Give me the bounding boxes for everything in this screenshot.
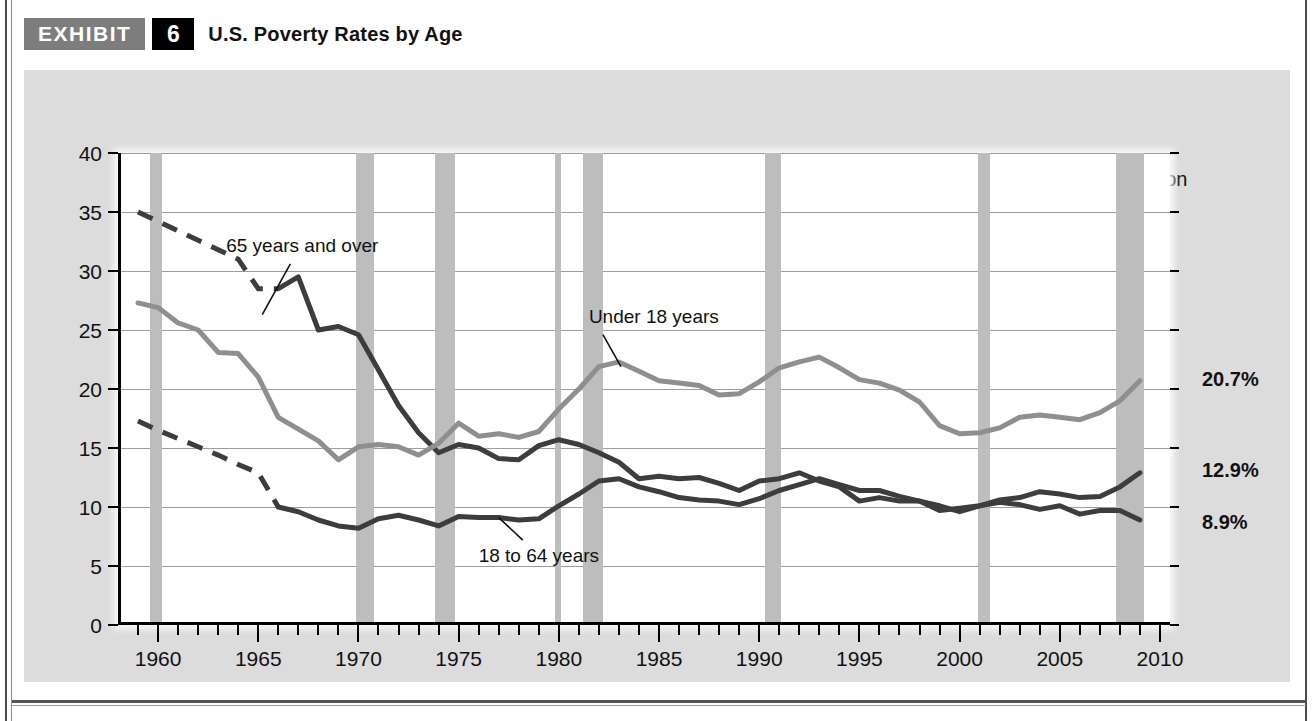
x-axis-label: 1960 (135, 647, 182, 671)
x-axis-tick-minor (1139, 625, 1141, 635)
y-axis-tick-right (1170, 388, 1179, 390)
x-axis-tick-minor (478, 625, 480, 635)
x-axis-label: 2010 (1137, 647, 1184, 671)
x-axis-tick-minor (217, 625, 219, 635)
chart-panel: Percent Recession 0510152025303540196019… (24, 70, 1290, 682)
x-axis-tick-minor (798, 625, 800, 635)
x-axis-label: 1995 (836, 647, 883, 671)
leader-18-to-64 (499, 518, 523, 540)
x-axis-tick-minor (878, 625, 880, 635)
x-axis-tick-major (1059, 625, 1061, 642)
x-axis-tick-minor (598, 625, 600, 635)
x-axis-tick-minor (317, 625, 319, 635)
x-axis-tick-minor (678, 625, 680, 635)
exhibit-page: EXHIBIT 6 U.S. Poverty Rates by Age Perc… (0, 0, 1312, 721)
x-axis-tick-minor (1119, 625, 1121, 635)
x-axis-tick-minor (618, 625, 620, 635)
x-axis-label: 1985 (636, 647, 683, 671)
y-axis-tick (108, 565, 118, 567)
footer-divider (12, 700, 1306, 703)
y-axis-label: 35 (56, 201, 102, 225)
x-axis-tick-minor (1019, 625, 1021, 635)
annotation-18-to-64: 18 to 64 years (479, 545, 599, 567)
x-axis-tick-minor (498, 625, 500, 635)
y-axis-label: 15 (56, 437, 102, 461)
x-axis-label: 1965 (235, 647, 282, 671)
x-axis-label: 1975 (435, 647, 482, 671)
annotation-under-18: Under 18 years (589, 306, 719, 328)
x-axis-tick-minor (337, 625, 339, 635)
x-axis-tick-minor (518, 625, 520, 635)
y-axis-label: 25 (56, 319, 102, 343)
y-axis-tick (108, 270, 118, 272)
x-axis-tick-minor (818, 625, 820, 635)
end-label-18-to-64: 12.9% (1202, 459, 1259, 482)
x-axis-tick-major (558, 625, 560, 642)
y-axis-tick (108, 329, 118, 331)
y-axis-tick (108, 152, 118, 154)
x-axis-tick-minor (578, 625, 580, 635)
y-axis-tick-right (1170, 329, 1179, 331)
y-axis-tick (108, 447, 118, 449)
x-axis-tick-major (959, 625, 961, 642)
y-axis-tick (108, 624, 118, 626)
x-axis-tick-minor (297, 625, 299, 635)
y-axis-tick-right (1170, 152, 1179, 154)
x-axis-label: 1970 (335, 647, 382, 671)
x-axis-label: 1990 (736, 647, 783, 671)
x-axis-tick-major (658, 625, 660, 642)
x-axis-tick-major (157, 625, 159, 642)
x-axis-tick-minor (939, 625, 941, 635)
x-axis-tick-minor (698, 625, 700, 635)
x-axis-tick-minor (277, 625, 279, 635)
x-axis-tick-minor (137, 625, 139, 635)
y-axis-tick-right (1170, 270, 1179, 272)
leader-under-18 (603, 335, 621, 367)
x-axis-tick-minor (438, 625, 440, 635)
y-axis-tick-right (1170, 506, 1179, 508)
x-axis-label: 1980 (535, 647, 582, 671)
end-label-65-over: 8.9% (1202, 511, 1248, 534)
y-axis-label: 0 (56, 614, 102, 638)
x-axis-tick-minor (838, 625, 840, 635)
y-axis-tick-right (1170, 447, 1179, 449)
x-axis-tick-major (758, 625, 760, 642)
y-axis-tick-right (1170, 211, 1179, 213)
x-axis-tick-major (357, 625, 359, 642)
page-right-rule (1305, 0, 1307, 721)
x-axis-tick-major (1159, 625, 1161, 642)
exhibit-label: EXHIBIT (24, 18, 145, 50)
annotation-leader-lines (118, 153, 1170, 625)
x-axis-label: 2005 (1036, 647, 1083, 671)
annotation-65-and-over: 65 years and over (226, 235, 378, 257)
y-axis-tick (108, 211, 118, 213)
end-label-under-18: 20.7% (1202, 368, 1259, 391)
page-title: U.S. Poverty Rates by Age (208, 23, 462, 46)
exhibit-header: EXHIBIT 6 U.S. Poverty Rates by Age (24, 14, 463, 54)
exhibit-number: 6 (152, 18, 194, 50)
y-axis-label: 40 (56, 142, 102, 166)
x-axis-tick-minor (778, 625, 780, 635)
x-axis-tick-minor (898, 625, 900, 635)
x-axis-tick-minor (197, 625, 199, 635)
y-axis-label: 10 (56, 496, 102, 520)
x-axis-tick-major (858, 625, 860, 642)
y-axis-tick (108, 506, 118, 508)
x-axis-tick-minor (979, 625, 981, 635)
y-axis-label: 30 (56, 260, 102, 284)
x-axis-tick-major (458, 625, 460, 642)
x-axis-tick-minor (738, 625, 740, 635)
x-axis-tick-minor (919, 625, 921, 635)
y-axis-label: 20 (56, 378, 102, 402)
footer-divider-thin (12, 705, 1306, 706)
x-axis-tick-minor (1079, 625, 1081, 635)
x-axis-tick-minor (638, 625, 640, 635)
x-axis-tick-minor (377, 625, 379, 635)
x-axis-tick-minor (418, 625, 420, 635)
page-left-rule-thin (11, 0, 12, 721)
x-axis-tick-minor (398, 625, 400, 635)
x-axis-tick-minor (237, 625, 239, 635)
y-axis-tick-right (1170, 565, 1179, 567)
y-axis-label: 5 (56, 555, 102, 579)
y-axis-tick (108, 388, 118, 390)
